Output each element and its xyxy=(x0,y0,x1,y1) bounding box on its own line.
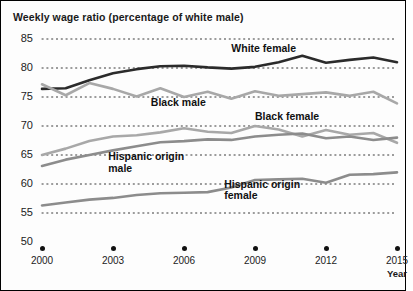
x-axis-tick-marker xyxy=(395,246,400,251)
series-label: Hispanic origin female xyxy=(224,179,300,202)
x-axis-tick-label: 2009 xyxy=(233,255,277,266)
line-chart-plot xyxy=(1,1,407,291)
y-axis-tick-label: 65 xyxy=(9,148,33,160)
y-axis-tick-label: 60 xyxy=(9,177,33,189)
y-axis-tick-label: 85 xyxy=(9,32,33,44)
series-line xyxy=(42,83,397,103)
x-axis-title: Year xyxy=(375,268,413,279)
series-label: White female xyxy=(231,43,296,55)
series-label: Black female xyxy=(255,111,319,123)
y-axis-tick-label: 50 xyxy=(9,235,33,247)
y-axis-tick-label: 70 xyxy=(9,119,33,131)
x-axis-tick-marker xyxy=(253,246,258,251)
y-axis-tick-label: 80 xyxy=(9,61,33,73)
x-axis-tick-marker xyxy=(111,246,116,251)
y-axis-tick-label: 55 xyxy=(9,206,33,218)
x-axis-tick-label: 2015 xyxy=(375,255,413,266)
x-axis-tick-marker xyxy=(182,246,187,251)
y-axis-tick-label: 75 xyxy=(9,90,33,102)
x-axis-tick-label: 2003 xyxy=(91,255,135,266)
x-axis-tick-label: 2012 xyxy=(304,255,348,266)
x-axis-tick-marker xyxy=(40,246,45,251)
series-label: Black male xyxy=(151,97,206,109)
x-axis-tick-marker xyxy=(324,246,329,251)
x-axis-tick-label: 2000 xyxy=(20,255,64,266)
series-line xyxy=(42,172,397,205)
series-label: Hispanic origin male xyxy=(108,151,184,174)
x-axis-tick-label: 2006 xyxy=(162,255,206,266)
series-line xyxy=(42,134,397,166)
